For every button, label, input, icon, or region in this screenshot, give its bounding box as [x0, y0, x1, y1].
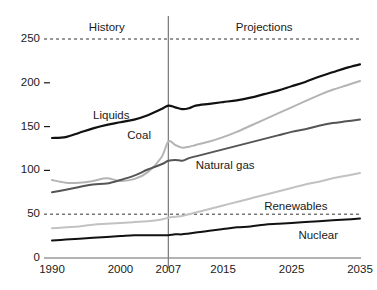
series-label-nuclear: Nuclear — [298, 230, 338, 242]
series-label-liquids: Liquids — [93, 110, 129, 122]
annotation-history: History — [67, 22, 147, 34]
series-label-natural-gas: Natural gas — [196, 160, 255, 172]
y-axis-tick-label-100: 100 — [10, 164, 40, 176]
series-line-natural-gas — [52, 120, 360, 193]
y-axis-tick-label-250: 250 — [10, 33, 40, 45]
x-axis-tick-label-2015: 2015 — [201, 264, 245, 276]
x-axis-tick-label-2035: 2035 — [338, 264, 377, 276]
x-axis-tick-label-2000: 2000 — [98, 264, 142, 276]
y-axis-tick-label-0: 0 — [10, 252, 40, 264]
series-label-renewables: Renewables — [264, 201, 327, 213]
y-axis-tick-label-50: 50 — [10, 208, 40, 220]
y-axis-tick-label-150: 150 — [10, 121, 40, 133]
annotation-projections: Projections — [224, 22, 304, 34]
series-label-coal: Coal — [127, 130, 151, 142]
x-axis-tick-label-2007: 2007 — [146, 264, 190, 276]
y-axis-tick-label-200: 200 — [10, 77, 40, 89]
x-axis-tick-label-2025: 2025 — [270, 264, 314, 276]
x-axis-tick-label-1990: 1990 — [30, 264, 74, 276]
